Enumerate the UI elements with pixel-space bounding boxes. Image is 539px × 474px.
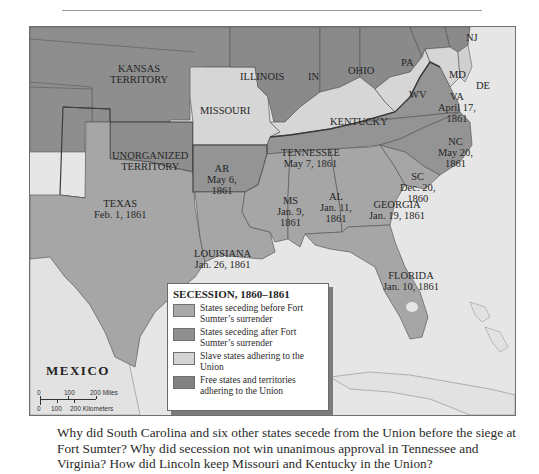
label-illinois: ILLINOIS — [240, 71, 284, 82]
scale-km-100: 100 — [51, 405, 62, 412]
label-maryland: MD — [449, 69, 466, 80]
legend-label: Slave states adhering to the Union — [200, 351, 323, 372]
label-georgia: GEORGIAJan. 19, 1861 — [369, 199, 425, 221]
label-arkansas: ARMay 6,1861 — [207, 163, 237, 196]
top-rule — [62, 10, 482, 11]
label-mississippi: MSJan. 9,1861 — [277, 195, 304, 228]
legend-item-slave-union: Slave states adhering to the Union — [173, 351, 323, 372]
label-ohio: OHIO — [348, 65, 374, 76]
label-tennessee: TENNESSEEMay 7, 1861 — [281, 147, 340, 169]
legend-swatch — [173, 304, 195, 317]
scale-tick — [57, 400, 58, 403]
legend-label: States seceding after Fort Sumter’s surr… — [200, 327, 323, 348]
scale-tick — [74, 400, 75, 403]
legend-item-free-union: Free states and territories adhering to … — [173, 375, 323, 396]
legend-label: Free states and territories adhering to … — [200, 375, 323, 396]
legend-label: States seceding before Fort Sumter’s sur… — [200, 303, 323, 324]
legend-title: SECESSION, 1860–1861 — [173, 288, 323, 300]
label-unorganized-territory: UNORGANIZEDTERRITORY — [112, 150, 188, 172]
label-north-carolina: NCMay 20,1861 — [438, 136, 473, 169]
label-west-virginia: WV — [409, 89, 427, 100]
legend-swatch — [173, 376, 195, 389]
legend-swatch — [173, 352, 195, 365]
secession-map: KANSASTERRITORY MISSOURI ILLINOIS IN OHI… — [29, 26, 516, 416]
scale-miles-200: 200 Miles — [90, 389, 118, 396]
label-kentucky: KENTUCKY — [330, 116, 388, 127]
map-legend: SECESSION, 1860–1861 States seceding bef… — [167, 283, 329, 411]
scale-km-200: 200 Kilometers — [70, 405, 113, 412]
scale-miles-0: 0 — [37, 389, 41, 396]
label-kansas-territory: KANSASTERRITORY — [110, 63, 168, 85]
scale-tick — [68, 396, 69, 399]
label-indiana: IN — [308, 71, 319, 82]
scale-tick — [96, 396, 97, 399]
scale-bar: 0 100 200 Miles 0 100 200 Kilometers — [34, 389, 144, 413]
scale-miles-100: 100 — [64, 389, 75, 396]
label-louisiana: LOUISIANAJan. 26, 1861 — [194, 248, 251, 270]
legend-swatch — [173, 328, 195, 341]
label-new-jersey: NJ — [466, 32, 478, 43]
label-mexico: MEXICO — [46, 363, 110, 379]
label-missouri: MISSOURI — [200, 105, 250, 116]
legend-item-seceded-after: States seceding after Fort Sumter’s surr… — [173, 327, 323, 348]
label-texas: TEXASFeb. 1, 1861 — [94, 198, 147, 220]
label-virginia: VAApril 17,1861 — [438, 91, 476, 124]
scale-km-0: 0 — [37, 405, 41, 412]
scale-line — [40, 399, 96, 400]
legend-item-seceded-before: States seceding before Fort Sumter’s sur… — [173, 303, 323, 324]
label-florida: FLORIDAJan. 10, 1861 — [383, 270, 439, 292]
label-delaware: DE — [476, 80, 490, 91]
label-pennsylvania: PA — [401, 57, 413, 68]
map-caption: Why did South Carolina and six other sta… — [57, 425, 527, 472]
scale-tick — [40, 396, 41, 405]
label-alabama: ALJan. 11,1861 — [320, 191, 352, 224]
